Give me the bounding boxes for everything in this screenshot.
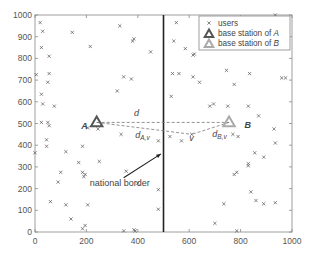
x-tick-label: 200 xyxy=(79,236,93,246)
legend-label: users xyxy=(218,19,238,28)
y-tick-label: 1000 xyxy=(13,10,32,20)
x-tick-label: 600 xyxy=(182,236,196,246)
scatter-chart: 02004006008001000 0100200300400500600700… xyxy=(0,0,314,255)
x-tick-label: 1000 xyxy=(283,236,302,246)
x-tick-label: 800 xyxy=(234,236,248,246)
y-tick-label: 200 xyxy=(18,184,32,194)
national-border-label: national border xyxy=(90,178,150,188)
annotation-label: A xyxy=(80,121,88,131)
x-axis-tick-labels: 02004006008001000 xyxy=(33,236,302,246)
y-tick-label: 500 xyxy=(18,119,32,129)
x-tick-label: 0 xyxy=(33,236,38,246)
x-tick-label: 400 xyxy=(131,236,145,246)
y-tick-label: 0 xyxy=(27,227,32,237)
y-axis-tick-labels: 01002003004005006007008009001000 xyxy=(13,10,32,237)
y-tick-label: 400 xyxy=(18,140,32,150)
legend-label: base station of B xyxy=(218,39,280,48)
y-tick-label: 600 xyxy=(18,97,32,107)
y-tick-label: 700 xyxy=(18,75,32,85)
annotation-label: v xyxy=(189,133,194,143)
y-tick-label: 300 xyxy=(18,162,32,172)
legend: usersbase station of Abase station of B xyxy=(199,16,290,50)
annotation-label: B xyxy=(244,120,251,130)
y-tick-label: 800 xyxy=(18,53,32,63)
y-tick-label: 100 xyxy=(18,205,32,215)
legend-label: base station of A xyxy=(218,29,280,38)
y-tick-label: 900 xyxy=(18,32,32,42)
